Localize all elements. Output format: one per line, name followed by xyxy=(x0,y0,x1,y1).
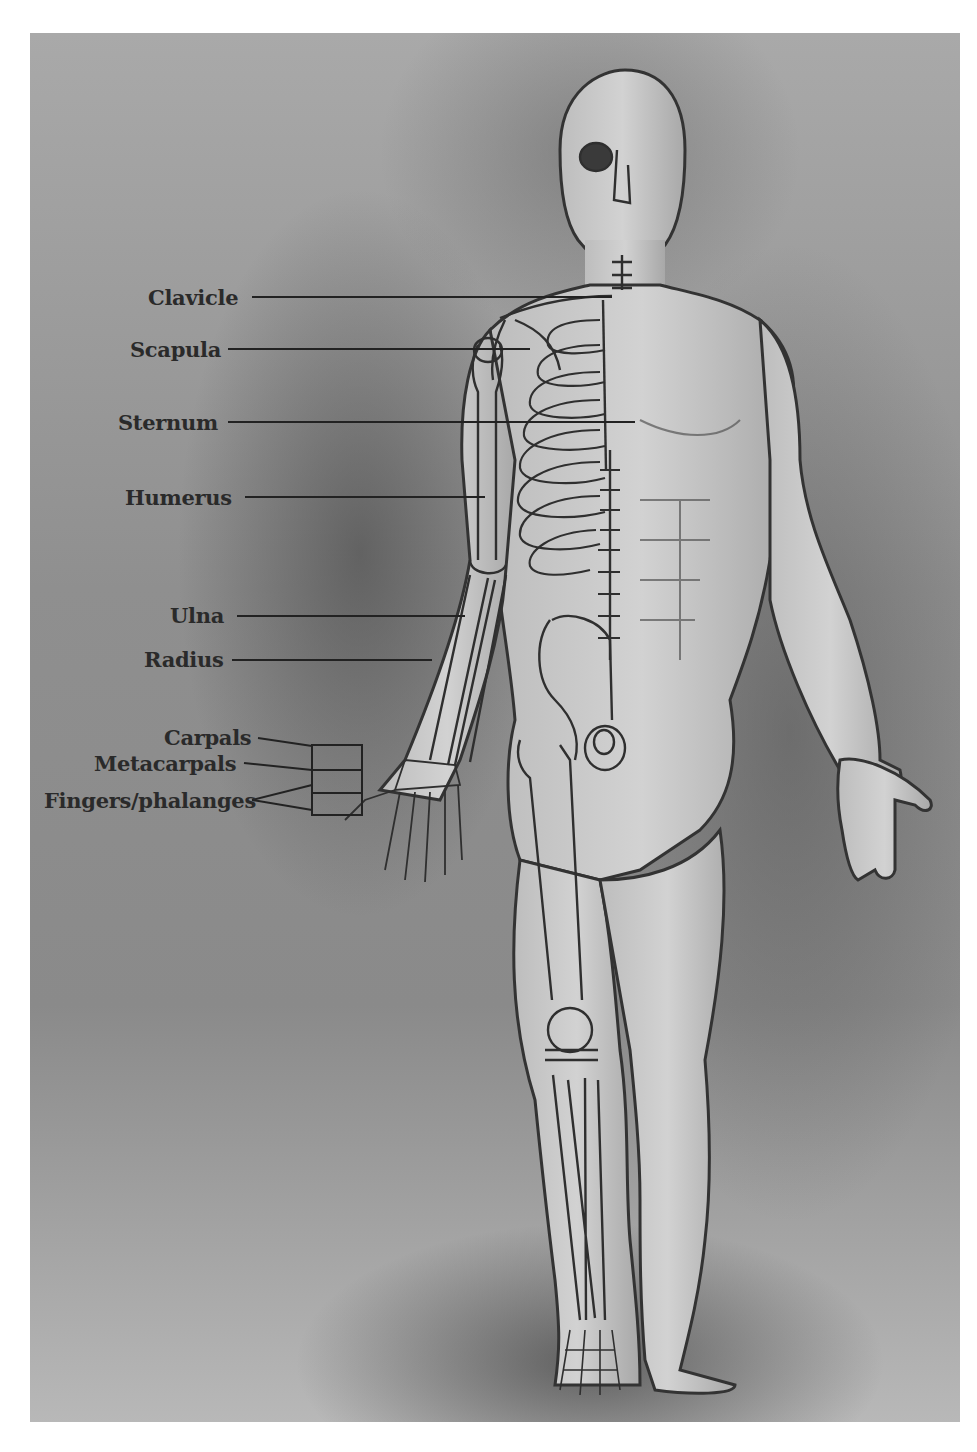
label-metacarpals: Metacarpals xyxy=(94,751,236,776)
label-phalanges: Fingers/phalanges xyxy=(44,788,256,813)
label-clavicle: Clavicle xyxy=(148,285,238,310)
label-carpals: Carpals xyxy=(164,725,251,750)
illustration-frame: Clavicle Scapula Sternum Humerus Ulna Ra… xyxy=(30,33,960,1422)
label-radius: Radius xyxy=(144,647,224,672)
label-ulna: Ulna xyxy=(170,603,224,628)
label-scapula: Scapula xyxy=(130,337,221,362)
label-humerus: Humerus xyxy=(125,485,232,510)
label-sternum: Sternum xyxy=(118,410,218,435)
